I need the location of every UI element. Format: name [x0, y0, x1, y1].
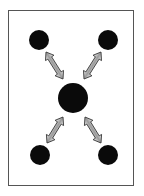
- double-arrow-icon: [80, 49, 105, 81]
- double-arrow-icon: [42, 49, 67, 81]
- diagram-canvas: [0, 0, 144, 196]
- double-arrow-icon: [43, 114, 68, 145]
- node-top-right: [98, 30, 118, 50]
- double-arrow-icon: [81, 114, 106, 145]
- nodes-group: [29, 30, 118, 165]
- node-bottom-left: [30, 145, 50, 165]
- node-center: [58, 83, 88, 113]
- node-top-left: [29, 30, 49, 50]
- node-bottom-right: [98, 145, 118, 165]
